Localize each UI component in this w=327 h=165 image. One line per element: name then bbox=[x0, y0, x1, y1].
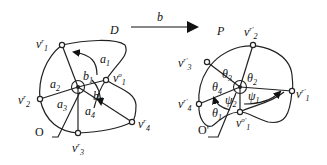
label-theta1: θ1 bbox=[212, 106, 222, 122]
label-psi1: ψ1 bbox=[248, 89, 259, 105]
label-v3: vr3 bbox=[72, 141, 84, 157]
vertex-v2[interactable] bbox=[37, 96, 42, 101]
label-theta2: θ2 bbox=[247, 71, 257, 87]
left-center-dot bbox=[76, 85, 80, 89]
right-graph: P vr'1 vr'2 vr'3 vr'4 vo'1 θ3 θ2 θ4 θ1 ψ… bbox=[178, 24, 310, 137]
diagram-canvas: D vr1 vr2 vr3 vr4 vo1 a1 a2 a3 a4 b1 b2 … bbox=[0, 0, 327, 165]
label-theta3: θ3 bbox=[222, 67, 232, 83]
vertex-v''2[interactable] bbox=[250, 42, 255, 47]
label-b1: b1 bbox=[83, 69, 93, 85]
mapping-arrow: b bbox=[131, 10, 189, 27]
graph-d-label: D bbox=[109, 23, 119, 37]
vertex-v''1[interactable] bbox=[289, 88, 294, 93]
vertex-v''4[interactable] bbox=[196, 101, 201, 106]
vertex-vo1[interactable] bbox=[103, 77, 108, 82]
label-a3: a3 bbox=[57, 97, 67, 113]
label-o-prime: O' bbox=[198, 123, 209, 137]
right-center-dot bbox=[238, 85, 242, 89]
label-v''2: vr'2 bbox=[244, 25, 258, 41]
graph-p-label: P bbox=[216, 24, 225, 38]
label-v2: vr2 bbox=[18, 93, 30, 109]
label-vo'1: vo'1 bbox=[236, 116, 250, 132]
label-vo1: vo1 bbox=[113, 71, 126, 87]
label-a4: a4 bbox=[85, 104, 95, 120]
label-b2: b2 bbox=[93, 89, 103, 105]
vertex-v4[interactable] bbox=[129, 119, 134, 124]
left-graph: D vr1 vr2 vr3 vr4 vo1 a1 a2 a3 a4 b1 b2 … bbox=[18, 23, 150, 157]
label-o: O bbox=[35, 125, 44, 139]
vertex-v1[interactable] bbox=[59, 42, 64, 47]
label-v''1: vr'1 bbox=[296, 87, 310, 103]
vertex-vo'1[interactable] bbox=[237, 109, 242, 114]
label-a1: a1 bbox=[100, 52, 110, 68]
label-a2: a2 bbox=[50, 77, 60, 93]
vertex-v''3[interactable] bbox=[204, 59, 209, 64]
label-v''4: vr'4 bbox=[178, 97, 192, 113]
label-theta4: θ4 bbox=[212, 80, 222, 96]
label-v''3: vr'3 bbox=[178, 56, 192, 72]
label-v1: vr1 bbox=[36, 37, 48, 53]
label-v4: vr4 bbox=[138, 117, 150, 133]
vertex-v3[interactable] bbox=[75, 130, 80, 135]
mapping-label: b bbox=[157, 10, 163, 24]
